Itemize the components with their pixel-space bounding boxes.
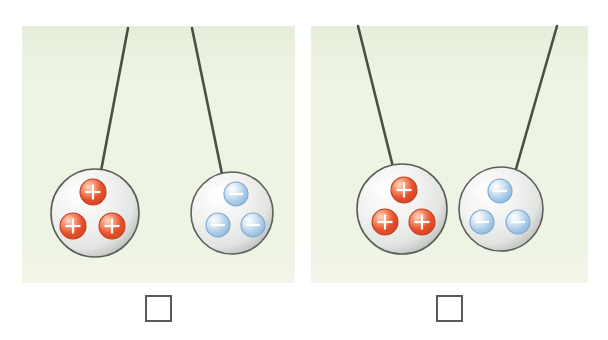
checkbox-box[interactable] xyxy=(146,296,171,321)
positive-charge-3: + xyxy=(99,213,125,239)
checkbox-box[interactable] xyxy=(437,296,462,321)
checkbox-right[interactable] xyxy=(437,296,462,321)
negative-charge-3: − xyxy=(506,210,530,234)
diagram-stage: +++−−−+++−−− xyxy=(0,0,608,340)
positive-charge-2: + xyxy=(60,213,86,239)
panel-group-left: +++−−− xyxy=(22,26,295,321)
positive-charge-1: + xyxy=(391,177,417,203)
checkbox-left[interactable] xyxy=(146,296,171,321)
panel-group-right: +++−−− xyxy=(311,26,588,321)
negative-charge-2: − xyxy=(206,213,230,237)
negative-charge-1: − xyxy=(488,179,512,203)
negative-charge-1: − xyxy=(224,182,248,206)
positive-charge-3: + xyxy=(409,209,435,235)
positive-charge-2: + xyxy=(372,209,398,235)
negative-charge-3: − xyxy=(241,213,265,237)
charged-spheres-figure: +++−−−+++−−− xyxy=(0,0,608,340)
positive-charge-1: + xyxy=(80,179,106,205)
negative-charge-2: − xyxy=(470,210,494,234)
